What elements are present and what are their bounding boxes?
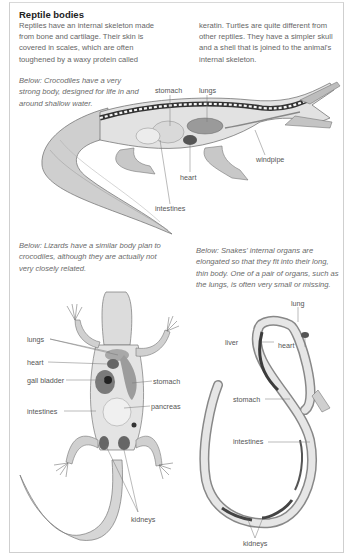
lizard-label-gall-bladder: gall bladder — [27, 376, 64, 385]
lizard-heart — [107, 359, 119, 369]
crocodile-heart — [183, 135, 197, 145]
lizard-kidney-left — [99, 436, 109, 450]
crocodile-label-lungs: lungs — [199, 86, 216, 95]
illustrations — [0, 0, 353, 558]
lizard-tail — [20, 460, 123, 540]
snake-illustration — [204, 307, 330, 538]
snake-label-heart: heart — [278, 341, 294, 350]
lizard-head — [102, 292, 132, 345]
snake-label-liver: liver — [225, 338, 238, 347]
snake-label-stomach: stomach — [233, 395, 260, 404]
snake-label-lung: lung — [291, 299, 305, 308]
crocodile-intestines — [136, 128, 160, 144]
crocodile-illustration — [42, 82, 340, 234]
lizard-kidney-right — [118, 436, 130, 450]
lizard-right-arm — [136, 330, 170, 356]
crocodile-body — [100, 83, 334, 148]
lizard-label-pancreas: pancreas — [151, 402, 181, 411]
snake-label-intestines: intestines — [233, 437, 263, 446]
lizard-gall-bladder — [104, 376, 112, 384]
lizard-label-lungs: lungs — [27, 335, 44, 344]
crocodile-label-heart: heart — [180, 173, 196, 182]
lizard-label-kidneys: kidneys — [131, 515, 155, 524]
lizard-right-leg — [136, 436, 162, 466]
crocodile-front-leg — [204, 146, 248, 180]
snake-heart — [301, 332, 309, 338]
crocodile-label-windpipe: windpipe — [256, 155, 284, 164]
lizard-intestines — [103, 398, 131, 426]
lizard-left-arm — [75, 320, 100, 348]
lizard-left-leg — [66, 436, 98, 464]
lizard-label-stomach: stomach — [153, 377, 180, 386]
lizard-illustration — [20, 292, 179, 540]
crocodile-label-stomach: stomach — [155, 86, 182, 95]
snake-label-kidneys: kidneys — [243, 539, 267, 548]
lizard-label-heart: heart — [27, 358, 43, 367]
crocodile-lungs — [187, 118, 223, 134]
crocodile-label-intestines: intestines — [155, 204, 185, 213]
lizard-label-intestines: intestines — [27, 407, 57, 416]
crocodile-back-leg — [116, 148, 155, 174]
